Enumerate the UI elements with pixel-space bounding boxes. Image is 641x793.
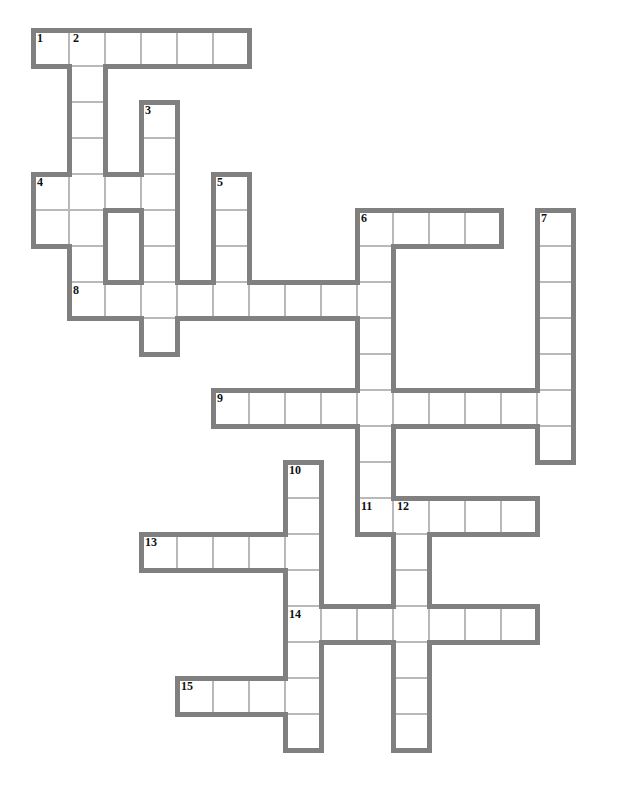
crossword-cell[interactable] bbox=[537, 426, 573, 462]
crossword-cell[interactable] bbox=[537, 390, 573, 426]
crossword-cell[interactable] bbox=[429, 498, 465, 534]
crossword-cell[interactable] bbox=[69, 210, 105, 246]
crossword-cell[interactable] bbox=[357, 606, 393, 642]
crossword-cell[interactable] bbox=[213, 30, 249, 66]
crossword-cell-numbered[interactable]: 7 bbox=[537, 210, 573, 246]
crossword-cell[interactable] bbox=[393, 606, 429, 642]
crossword-cell[interactable] bbox=[213, 678, 249, 714]
crossword-cell[interactable] bbox=[501, 498, 537, 534]
crossword-cell[interactable] bbox=[393, 210, 429, 246]
crossword-cell[interactable] bbox=[69, 174, 105, 210]
crossword-cell-numbered[interactable]: 12 bbox=[393, 498, 429, 534]
crossword-cell-numbered[interactable]: 2 bbox=[69, 30, 105, 66]
crossword-cell[interactable] bbox=[177, 282, 213, 318]
crossword-cell[interactable] bbox=[465, 498, 501, 534]
crossword-cell[interactable] bbox=[357, 246, 393, 282]
crossword-cell-numbered[interactable]: 10 bbox=[285, 462, 321, 498]
crossword-cell[interactable] bbox=[393, 714, 429, 750]
crossword-grid[interactable]: 123456789101112131415 bbox=[0, 0, 641, 793]
crossword-cell[interactable] bbox=[537, 246, 573, 282]
crossword-cell[interactable] bbox=[141, 210, 177, 246]
cell-letter bbox=[250, 679, 284, 713]
crossword-cell[interactable] bbox=[357, 354, 393, 390]
crossword-cell[interactable] bbox=[285, 282, 321, 318]
crossword-cell[interactable] bbox=[357, 426, 393, 462]
crossword-cell[interactable] bbox=[105, 282, 141, 318]
crossword-cell-numbered[interactable]: 5 bbox=[213, 174, 249, 210]
crossword-cell[interactable] bbox=[429, 606, 465, 642]
crossword-cell[interactable] bbox=[69, 102, 105, 138]
crossword-cell[interactable] bbox=[393, 570, 429, 606]
crossword-cell[interactable] bbox=[357, 462, 393, 498]
crossword-cell-numbered[interactable]: 1 bbox=[33, 30, 69, 66]
grid-border-right bbox=[175, 316, 180, 357]
grid-border-top bbox=[175, 280, 216, 285]
crossword-cell-numbered[interactable]: 6 bbox=[357, 210, 393, 246]
crossword-cell[interactable] bbox=[213, 282, 249, 318]
crossword-cell[interactable] bbox=[501, 390, 537, 426]
crossword-cell[interactable] bbox=[285, 498, 321, 534]
crossword-cell[interactable] bbox=[357, 282, 393, 318]
crossword-cell[interactable] bbox=[105, 174, 141, 210]
cell-letter bbox=[250, 391, 284, 425]
crossword-cell-numbered[interactable]: 4 bbox=[33, 174, 69, 210]
crossword-cell[interactable] bbox=[105, 30, 141, 66]
crossword-cell[interactable] bbox=[285, 534, 321, 570]
crossword-cell[interactable] bbox=[249, 534, 285, 570]
crossword-cell[interactable] bbox=[393, 390, 429, 426]
grid-border-top bbox=[499, 388, 540, 393]
crossword-cell[interactable] bbox=[213, 246, 249, 282]
crossword-cell[interactable] bbox=[321, 390, 357, 426]
crossword-cell[interactable] bbox=[141, 138, 177, 174]
crossword-cell[interactable] bbox=[321, 606, 357, 642]
grid-border-top bbox=[391, 388, 432, 393]
crossword-cell-numbered[interactable]: 8 bbox=[69, 282, 105, 318]
crossword-cell[interactable] bbox=[177, 534, 213, 570]
crossword-cell-numbered[interactable]: 3 bbox=[141, 102, 177, 138]
crossword-cell[interactable] bbox=[69, 138, 105, 174]
crossword-cell-numbered[interactable]: 13 bbox=[141, 534, 177, 570]
crossword-cell[interactable] bbox=[285, 570, 321, 606]
crossword-cell[interactable] bbox=[33, 210, 69, 246]
crossword-cell[interactable] bbox=[537, 318, 573, 354]
crossword-cell-numbered[interactable]: 9 bbox=[213, 390, 249, 426]
crossword-cell[interactable] bbox=[465, 390, 501, 426]
crossword-cell[interactable] bbox=[213, 534, 249, 570]
crossword-cell[interactable] bbox=[249, 390, 285, 426]
cell-letter bbox=[142, 211, 176, 245]
crossword-cell-numbered[interactable]: 14 bbox=[285, 606, 321, 642]
crossword-cell[interactable] bbox=[213, 210, 249, 246]
crossword-cell[interactable] bbox=[249, 678, 285, 714]
crossword-cell-numbered[interactable]: 11 bbox=[357, 498, 393, 534]
crossword-cell[interactable] bbox=[393, 678, 429, 714]
crossword-cell[interactable] bbox=[141, 246, 177, 282]
crossword-cell[interactable] bbox=[357, 318, 393, 354]
crossword-cell[interactable] bbox=[429, 210, 465, 246]
crossword-cell[interactable] bbox=[285, 642, 321, 678]
crossword-cell[interactable] bbox=[141, 282, 177, 318]
crossword-cell[interactable] bbox=[285, 678, 321, 714]
crossword-cell[interactable] bbox=[537, 282, 573, 318]
crossword-cell[interactable] bbox=[465, 210, 501, 246]
crossword-cell[interactable] bbox=[141, 30, 177, 66]
crossword-cell[interactable] bbox=[285, 714, 321, 750]
crossword-cell[interactable] bbox=[393, 534, 429, 570]
crossword-cell[interactable] bbox=[501, 606, 537, 642]
crossword-cell[interactable] bbox=[465, 606, 501, 642]
crossword-cell[interactable] bbox=[321, 282, 357, 318]
crossword-cell[interactable] bbox=[69, 66, 105, 102]
crossword-cell[interactable] bbox=[285, 390, 321, 426]
crossword-cell-numbered[interactable]: 15 bbox=[177, 678, 213, 714]
crossword-cell[interactable] bbox=[537, 354, 573, 390]
crossword-cell[interactable] bbox=[141, 174, 177, 210]
crossword-cell[interactable] bbox=[429, 390, 465, 426]
crossword-cell[interactable] bbox=[357, 390, 393, 426]
crossword-cell[interactable] bbox=[177, 30, 213, 66]
crossword-cell[interactable] bbox=[393, 642, 429, 678]
crossword-cell[interactable] bbox=[141, 318, 177, 354]
cell-letter bbox=[106, 283, 140, 317]
grid-border-bottom bbox=[211, 712, 252, 717]
crossword-cell[interactable] bbox=[69, 246, 105, 282]
crossword-cell[interactable] bbox=[249, 282, 285, 318]
grid-border-bottom bbox=[139, 64, 180, 69]
